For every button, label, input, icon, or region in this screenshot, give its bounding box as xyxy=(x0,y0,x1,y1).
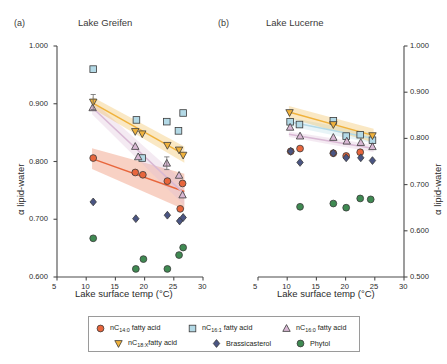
data-point xyxy=(90,66,97,73)
data-point xyxy=(297,159,303,167)
triangle-down-marker-icon xyxy=(113,338,124,349)
circle-marker-icon xyxy=(295,338,306,349)
panel-b-title: Lake Lucerne xyxy=(266,17,324,28)
data-point xyxy=(179,180,186,187)
y-tick-label: 1.000 xyxy=(29,41,48,50)
x-tick-label: 10 xyxy=(282,282,290,291)
legend-label: nC16:0 fatty acid xyxy=(296,323,346,333)
legend-label: Brassicasterol xyxy=(226,339,271,348)
data-point xyxy=(140,256,147,263)
x-axis-label-b: Lake surface temp (°C) xyxy=(277,288,375,299)
x-tick-label: 15 xyxy=(110,282,118,291)
data-point xyxy=(297,145,304,152)
data-point xyxy=(176,252,183,259)
legend: nC14:0 fatty acidnC16:1 fatty acidnC16:0… xyxy=(88,316,360,352)
triangle-up-marker-icon xyxy=(281,323,292,334)
data-point xyxy=(133,215,139,223)
data-point xyxy=(330,200,337,207)
y-axis-label-left: α lipid-water xyxy=(15,164,26,215)
data-point xyxy=(180,244,187,251)
y-tick-label: 0.700 xyxy=(410,180,429,189)
x-tick-label: 30 xyxy=(399,282,407,291)
panel-b-label: (b) xyxy=(218,18,229,28)
legend-label: nC16:1 fatty acid xyxy=(202,323,252,333)
data-point xyxy=(90,66,97,73)
y-tick-label: 0.700 xyxy=(29,214,48,223)
data-point xyxy=(164,211,170,219)
figure-container: (a) Lake Greifen (b) Lake Lucerne α lipi… xyxy=(0,0,447,364)
data-point xyxy=(132,266,139,273)
x-tick-label: 10 xyxy=(81,282,89,291)
data-point xyxy=(163,118,170,125)
data-point xyxy=(132,169,139,176)
data-point xyxy=(343,204,350,211)
panel-b xyxy=(286,106,376,211)
data-point xyxy=(90,198,96,206)
data-point xyxy=(175,128,182,135)
x-tick-label: 20 xyxy=(140,282,148,291)
data-point xyxy=(164,178,171,185)
y-tick-label: 0.900 xyxy=(29,99,48,108)
legend-label: Phytol xyxy=(310,339,330,348)
data-point xyxy=(369,157,375,165)
data-point xyxy=(164,266,171,273)
y-tick-label: 0.800 xyxy=(29,157,48,166)
data-point xyxy=(180,110,187,117)
x-tick-label: 25 xyxy=(169,282,177,291)
data-point xyxy=(297,159,303,167)
data-point xyxy=(139,171,146,178)
data-point xyxy=(357,131,364,138)
data-point xyxy=(164,266,171,273)
y-tick-label: 0.800 xyxy=(410,133,429,142)
y-tick-label: 0.600 xyxy=(410,226,429,235)
data-point xyxy=(357,195,364,202)
data-point xyxy=(297,203,304,210)
data-point xyxy=(90,198,96,206)
data-point xyxy=(369,157,375,165)
diamond-marker-icon xyxy=(211,338,222,349)
data-point xyxy=(176,252,183,259)
square-marker-icon xyxy=(187,323,198,334)
data-point xyxy=(163,118,170,125)
data-point xyxy=(175,128,182,135)
circle-marker-icon xyxy=(95,323,106,334)
legend-item-nc18-x-fatty-acid[interactable]: nC18:Xfatty acid xyxy=(113,338,177,349)
legend-item-nc16-1-fatty-acid[interactable]: nC16:1 fatty acid xyxy=(187,323,252,334)
data-point xyxy=(180,244,187,251)
data-point xyxy=(357,195,364,202)
legend-item-nc14-fatty-acid[interactable]: nC14:0 fatty acid xyxy=(95,323,160,334)
panel-a-label: (a) xyxy=(14,18,25,28)
x-tick-label: 30 xyxy=(198,282,206,291)
plot-canvas xyxy=(0,0,447,364)
data-point xyxy=(177,205,184,212)
y-tick-label: 0.600 xyxy=(29,272,48,281)
data-point xyxy=(90,155,97,162)
x-tick-label: 15 xyxy=(311,282,319,291)
y-axis-label-right: α lipid-water xyxy=(432,164,443,215)
data-point xyxy=(179,180,186,187)
data-point xyxy=(296,121,303,128)
data-point xyxy=(132,169,139,176)
data-point xyxy=(177,205,184,212)
data-point xyxy=(90,235,97,242)
data-point xyxy=(133,215,139,223)
data-point xyxy=(140,256,147,263)
legend-item-phytol[interactable]: Phytol xyxy=(295,338,330,349)
data-point xyxy=(330,200,337,207)
data-point xyxy=(297,203,304,210)
x-tick-label: 20 xyxy=(341,282,349,291)
data-point xyxy=(357,131,364,138)
data-point xyxy=(367,196,374,203)
y-tick-label: 0.900 xyxy=(410,87,429,96)
legend-item-brassicasterol[interactable]: Brassicasterol xyxy=(211,338,271,349)
data-point xyxy=(90,155,97,162)
data-point xyxy=(90,235,97,242)
legend-item-nc16-0-fatty-acid[interactable]: nC16:0 fatty acid xyxy=(281,323,346,334)
legend-label: nC14:0 fatty acid xyxy=(110,323,160,333)
x-tick-label: 5 xyxy=(52,282,56,291)
data-point xyxy=(180,110,187,117)
x-tick-label: 25 xyxy=(370,282,378,291)
data-point xyxy=(133,117,140,124)
data-point xyxy=(367,196,374,203)
x-tick-label: 5 xyxy=(253,282,257,291)
